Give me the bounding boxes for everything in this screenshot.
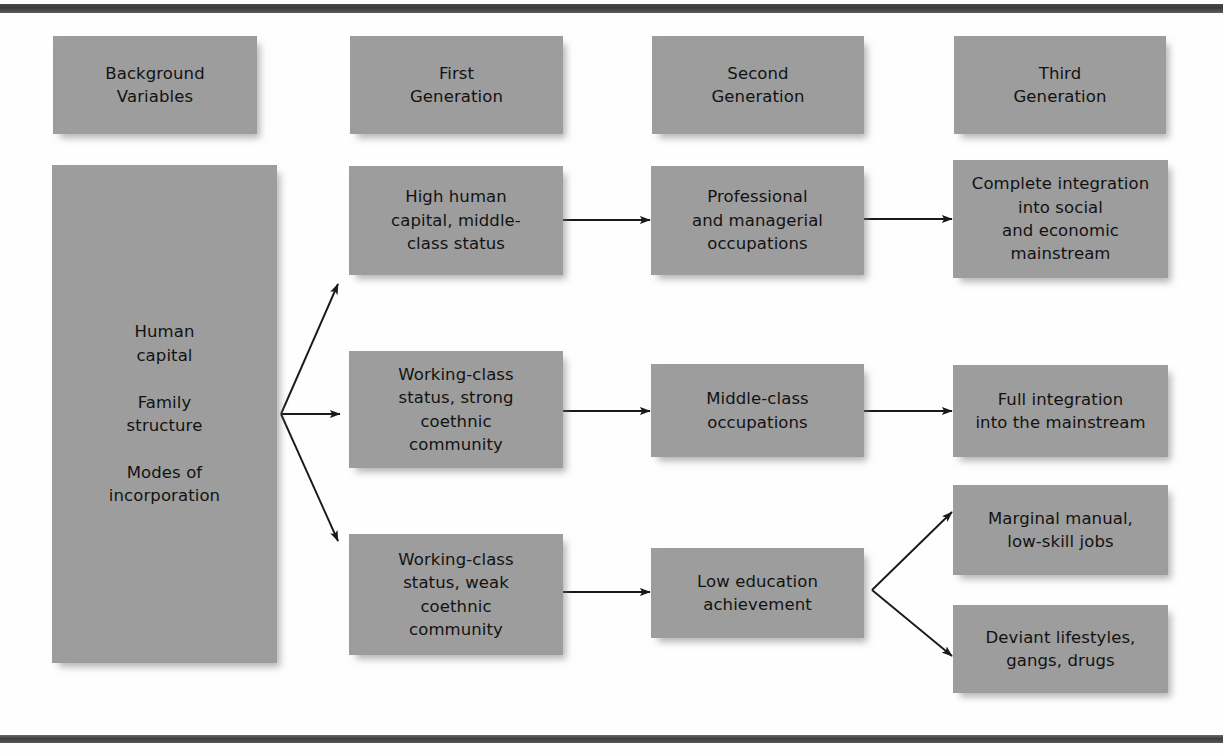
node-working-class-weak: Working-class status, weak coethnic comm… xyxy=(349,534,563,655)
header-background-variables: Background Variables xyxy=(53,36,257,134)
node-low-education: Low education achievement xyxy=(651,548,864,638)
header-label: Third Generation xyxy=(1013,62,1106,109)
node-high-human-capital: High human capital, middle- class status xyxy=(349,166,563,275)
node-label: Deviant lifestyles, gangs, drugs xyxy=(986,626,1136,673)
node-label: Working-class status, strong coethnic co… xyxy=(398,363,514,457)
node-middle-class-occupations: Middle-class occupations xyxy=(651,364,864,457)
header-third-generation: Third Generation xyxy=(954,36,1166,134)
arrow-low-education-to-deviant-lifestyles xyxy=(872,590,952,656)
node-label: Full integration into the mainstream xyxy=(975,388,1145,435)
arrow-background-to-working-class-weak xyxy=(281,414,338,541)
header-first-generation: First Generation xyxy=(350,36,563,134)
node-full-integration: Full integration into the mainstream xyxy=(953,365,1168,457)
node-deviant-lifestyles: Deviant lifestyles, gangs, drugs xyxy=(953,605,1168,693)
header-second-generation: Second Generation xyxy=(652,36,864,134)
arrow-background-to-high-human-capital xyxy=(281,284,338,414)
header-label: First Generation xyxy=(410,62,503,109)
node-professional-managerial: Professional and managerial occupations xyxy=(651,166,864,275)
node-complete-integration: Complete integration into social and eco… xyxy=(953,160,1168,278)
node-working-class-strong: Working-class status, strong coethnic co… xyxy=(349,351,563,468)
node-background-factors: Human capital Family structure Modes of … xyxy=(52,165,277,663)
node-marginal-manual: Marginal manual, low-skill jobs xyxy=(953,485,1168,575)
arrow-low-education-to-marginal-manual xyxy=(872,512,952,590)
node-label: Professional and managerial occupations xyxy=(692,185,823,255)
node-label: High human capital, middle- class status xyxy=(391,185,521,255)
node-label: Working-class status, weak coethnic comm… xyxy=(398,548,514,642)
node-label: Middle-class occupations xyxy=(706,387,809,434)
node-label: Complete integration into social and eco… xyxy=(972,172,1149,266)
header-label: Second Generation xyxy=(711,62,804,109)
scan-edge-top xyxy=(0,4,1223,13)
header-label: Background Variables xyxy=(105,62,204,109)
diagram-canvas: Background Variables First Generation Se… xyxy=(0,0,1223,754)
node-label: Marginal manual, low-skill jobs xyxy=(988,507,1133,554)
scan-edge-bottom xyxy=(0,735,1223,743)
node-label: Low education achievement xyxy=(697,570,818,617)
node-label: Human capital Family structure Modes of … xyxy=(109,320,220,507)
